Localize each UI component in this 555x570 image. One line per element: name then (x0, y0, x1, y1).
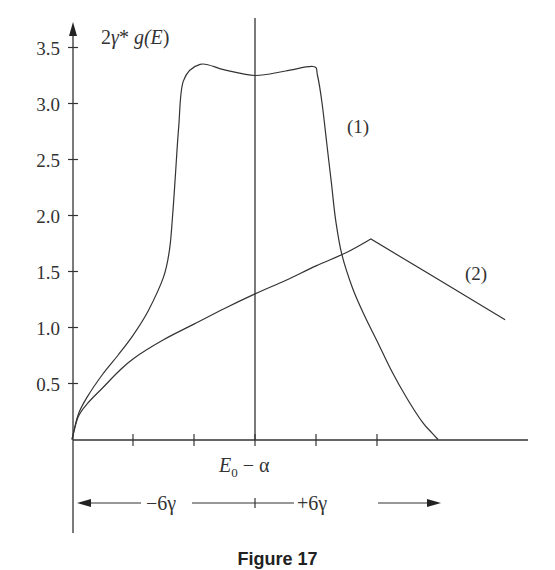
curve-1-label: (1) (347, 116, 369, 138)
range-left-label: −6γ (146, 492, 176, 515)
y-tick-label: 1.5 (36, 262, 60, 283)
arrow-left-icon (77, 499, 91, 507)
range-right-label: +6γ (297, 492, 327, 515)
y-tick-label: 1.0 (36, 318, 60, 339)
curve-2-label: (2) (465, 263, 487, 285)
figure-caption: Figure 17 (0, 549, 555, 570)
y-ticks: 0.51.01.52.02.53.03.5 (36, 38, 78, 395)
y-tick-label: 3.5 (36, 38, 60, 59)
arrow-right-icon (427, 499, 441, 507)
y-tick-label: 0.5 (36, 374, 60, 395)
x-axis-label: E0 − α (218, 454, 270, 480)
y-axis-label: 2γ*g(E) (101, 26, 169, 49)
y-tick-label: 2.0 (36, 206, 60, 227)
y-axis-arrowhead-icon (69, 22, 77, 36)
y-tick-label: 3.0 (36, 94, 60, 115)
range-annotation (85, 498, 432, 508)
curve-2 (72, 239, 505, 440)
y-tick-label: 2.5 (36, 150, 60, 171)
